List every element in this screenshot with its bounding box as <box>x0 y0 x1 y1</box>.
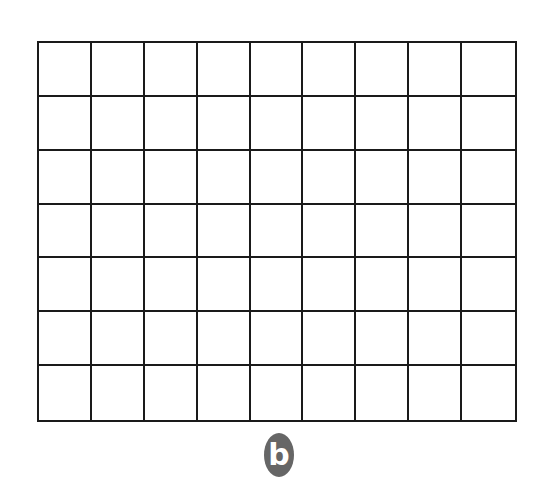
grid-cell <box>198 205 251 259</box>
grid-cell <box>409 366 462 420</box>
grid-cell <box>462 258 515 312</box>
grid-cell <box>462 97 515 151</box>
grid-cell <box>92 205 145 259</box>
grid-cell <box>251 97 304 151</box>
grid-cell <box>198 97 251 151</box>
grid-cell <box>303 97 356 151</box>
grid-cell <box>198 312 251 366</box>
label-badge: b <box>264 433 294 477</box>
grid-cell <box>409 258 462 312</box>
empty-grid <box>37 41 517 422</box>
grid-cell <box>92 97 145 151</box>
grid-cell <box>145 151 198 205</box>
grid-cell <box>198 151 251 205</box>
grid-cell <box>92 43 145 97</box>
grid-cell <box>145 43 198 97</box>
grid-cell <box>251 312 304 366</box>
grid-cell <box>409 151 462 205</box>
grid-cell <box>198 43 251 97</box>
grid-cell <box>251 151 304 205</box>
grid-cell <box>92 151 145 205</box>
grid-cell <box>303 151 356 205</box>
grid-cell <box>462 312 515 366</box>
grid-cell <box>39 205 92 259</box>
grid-cell <box>409 97 462 151</box>
grid-cell <box>409 312 462 366</box>
grid-cell <box>198 366 251 420</box>
grid-cell <box>356 97 409 151</box>
grid-cell <box>39 43 92 97</box>
grid-cell <box>39 312 92 366</box>
grid-cell <box>409 205 462 259</box>
grid-cell <box>462 43 515 97</box>
grid-cell <box>251 205 304 259</box>
grid-cell <box>462 151 515 205</box>
grid-cell <box>39 151 92 205</box>
grid-cell <box>303 258 356 312</box>
grid-cell <box>462 205 515 259</box>
grid-cell <box>145 366 198 420</box>
grid-cell <box>198 258 251 312</box>
grid-cell <box>145 312 198 366</box>
grid-cell <box>92 258 145 312</box>
grid-cell <box>409 43 462 97</box>
grid-cell <box>356 205 409 259</box>
grid-cell <box>251 366 304 420</box>
grid-cell <box>145 97 198 151</box>
grid-cell <box>356 366 409 420</box>
grid-cell <box>145 258 198 312</box>
grid-cell <box>251 43 304 97</box>
grid-cell <box>303 205 356 259</box>
grid-cell <box>39 366 92 420</box>
grid-cell <box>356 151 409 205</box>
grid-cell <box>145 205 198 259</box>
badge-letter: b <box>268 440 289 470</box>
grid-cell <box>92 366 145 420</box>
grid-cell <box>92 312 145 366</box>
grid-cell <box>356 43 409 97</box>
grid-cell <box>462 366 515 420</box>
grid-cell <box>356 312 409 366</box>
grid-cell <box>39 97 92 151</box>
grid-cell <box>303 43 356 97</box>
grid-cell <box>39 258 92 312</box>
grid-cell <box>251 258 304 312</box>
grid-cell <box>303 312 356 366</box>
grid-cell <box>356 258 409 312</box>
grid-cell <box>303 366 356 420</box>
